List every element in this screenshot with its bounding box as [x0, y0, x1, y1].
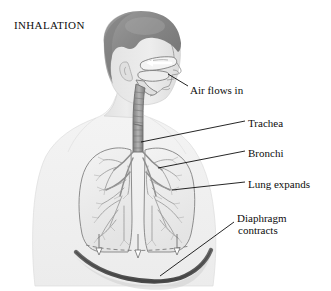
label-diaphragm-line2: contracts	[237, 224, 286, 236]
figure-title: INHALATION	[14, 19, 85, 31]
label-bronchi: Bronchi	[248, 147, 283, 159]
illustration-canvas: INHALATION Air flows in Trachea Bronchi …	[0, 0, 331, 291]
label-air-flows-in: Air flows in	[190, 84, 243, 96]
label-lung-expands: Lung expands	[248, 178, 310, 190]
label-diaphragm-line1: Diaphragm	[237, 212, 286, 224]
respiratory-system-illustration	[0, 0, 331, 291]
label-trachea: Trachea	[248, 117, 283, 129]
label-diaphragm-contracts: Diaphragm contracts	[237, 212, 286, 237]
